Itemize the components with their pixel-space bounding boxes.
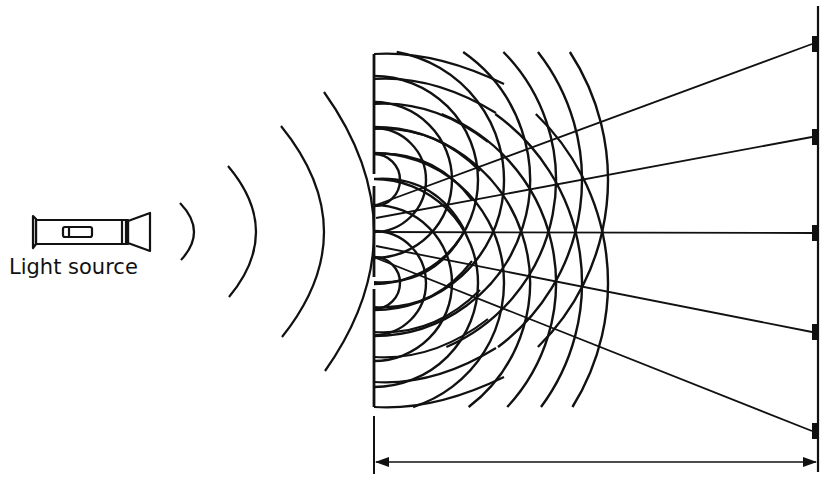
interference-pattern — [374, 52, 608, 407]
detection-screen — [812, 6, 818, 472]
bright-fringe — [812, 225, 818, 241]
double-slit-diagram: Light source — [0, 0, 840, 496]
incident-wavefronts — [180, 92, 374, 371]
wavefront-arc — [180, 203, 194, 260]
diagram-canvas — [0, 0, 840, 496]
flashlight-icon — [33, 213, 150, 251]
bright-fringe — [812, 324, 818, 340]
bright-fringe — [812, 36, 818, 52]
wavefront-arc — [324, 92, 374, 371]
bright-fringe — [812, 423, 818, 439]
bright-fringe — [812, 129, 818, 145]
wavefront-arc — [228, 166, 256, 297]
interference-line — [376, 258, 812, 431]
slit-to-screen-distance-arrow — [374, 416, 816, 474]
interference-line — [376, 232, 812, 233]
wavefront-arc — [281, 126, 324, 337]
light-source-label: Light source — [9, 255, 138, 279]
